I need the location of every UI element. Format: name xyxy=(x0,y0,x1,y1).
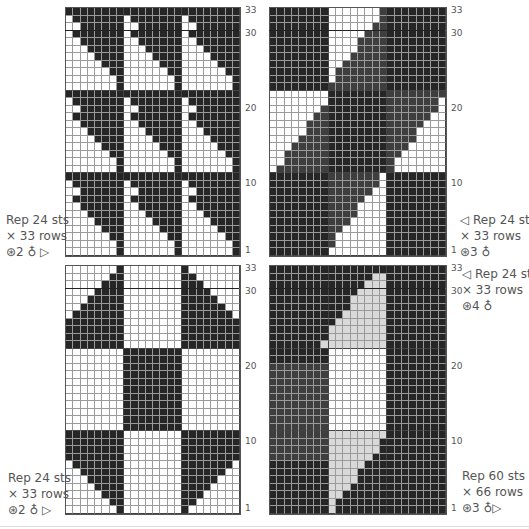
grid-cell xyxy=(351,181,358,189)
grid-cell xyxy=(160,379,167,387)
grid-cell xyxy=(314,53,321,61)
grid-cell xyxy=(358,476,365,484)
grid-cell xyxy=(299,226,306,234)
grid-cell xyxy=(81,158,88,166)
grid-cell xyxy=(365,173,372,181)
grid-cell xyxy=(292,151,299,159)
grid-cell xyxy=(351,394,358,402)
grid-cell xyxy=(351,326,358,334)
grid-cell xyxy=(153,8,160,16)
grid-cell xyxy=(131,181,138,189)
grid-cell xyxy=(226,8,233,16)
grid-cell xyxy=(66,76,73,84)
grid-cell xyxy=(204,446,211,454)
grid-cell xyxy=(73,431,80,439)
grid-cell xyxy=(117,319,124,327)
grid-cell xyxy=(373,16,380,24)
grid-cell xyxy=(175,196,182,204)
grid-cell xyxy=(131,431,138,439)
grid-cell xyxy=(314,211,321,219)
grid-cell xyxy=(182,326,189,334)
grid-cell xyxy=(124,46,131,54)
grid-cell xyxy=(270,218,277,226)
grid-cell xyxy=(373,476,380,484)
grid-cell xyxy=(402,106,409,114)
grid-cell xyxy=(387,211,394,219)
grid-cell xyxy=(124,8,131,16)
grid-cell xyxy=(380,349,387,357)
grid-cell xyxy=(365,128,372,136)
grid-cell xyxy=(160,143,167,151)
grid-cell xyxy=(160,38,167,46)
grid-cell xyxy=(402,401,409,409)
grid-cell xyxy=(270,319,277,327)
grid-cell xyxy=(88,364,95,372)
grid-cell xyxy=(299,364,306,372)
grid-cell xyxy=(439,326,446,334)
grid-cell xyxy=(88,218,95,226)
grid-cell xyxy=(431,181,438,189)
grid-cell xyxy=(417,409,424,417)
grid-cell xyxy=(131,76,138,84)
grid-cell xyxy=(233,61,240,69)
grid-cell xyxy=(343,491,350,499)
grid-cell xyxy=(395,166,402,174)
grid-cell xyxy=(285,356,292,364)
grid-cell xyxy=(218,166,225,174)
grid-cell xyxy=(197,409,204,417)
grid-cell xyxy=(343,16,350,24)
grid-cell xyxy=(358,371,365,379)
grid-cell xyxy=(124,319,131,327)
grid-cell xyxy=(146,491,153,499)
grid-cell xyxy=(314,394,321,402)
grid-cell xyxy=(233,469,240,477)
grid-cell xyxy=(387,356,394,364)
grid-cell xyxy=(226,469,233,477)
grid-cell xyxy=(95,409,102,417)
grid-cell xyxy=(329,106,336,114)
grid-cell xyxy=(146,83,153,91)
row-number-label: 20 xyxy=(245,103,256,113)
grid-cell xyxy=(88,248,95,256)
grid-cell xyxy=(292,506,299,514)
grid-cell xyxy=(307,226,314,234)
grid-cell xyxy=(431,371,438,379)
grid-cell xyxy=(81,416,88,424)
grid-cell xyxy=(88,379,95,387)
grid-cell xyxy=(95,416,102,424)
grid-cell xyxy=(402,218,409,226)
grid-cell xyxy=(307,356,314,364)
grid-cell xyxy=(88,143,95,151)
grid-cell xyxy=(292,46,299,54)
grid-cell xyxy=(95,248,102,256)
grid-cell xyxy=(307,53,314,61)
grid-cell xyxy=(431,394,438,402)
grid-cell xyxy=(189,379,196,387)
grid-cell xyxy=(211,319,218,327)
grid-cell xyxy=(321,454,328,462)
grid-cell xyxy=(204,274,211,282)
grid-cell xyxy=(95,68,102,76)
grid-cell xyxy=(131,424,138,432)
grid-cell xyxy=(314,439,321,447)
grid-cell xyxy=(329,46,336,54)
grid-cell xyxy=(321,416,328,424)
grid-cell xyxy=(131,46,138,54)
grid-cell xyxy=(218,83,225,91)
grid-cell xyxy=(270,304,277,312)
grid-cell xyxy=(139,409,146,417)
grid-cell xyxy=(373,349,380,357)
grid-cell xyxy=(365,439,372,447)
grid-cell xyxy=(351,46,358,54)
grid-cell xyxy=(110,8,117,16)
grid-cell xyxy=(131,166,138,174)
grid-cell xyxy=(146,248,153,256)
grid-cell xyxy=(110,499,117,507)
grid-cell xyxy=(270,491,277,499)
grid-cell xyxy=(160,409,167,417)
grid-cell xyxy=(409,128,416,136)
grid-cell xyxy=(110,424,117,432)
grid-cell xyxy=(395,31,402,39)
grid-cell xyxy=(336,506,343,514)
grid-cell xyxy=(95,334,102,342)
